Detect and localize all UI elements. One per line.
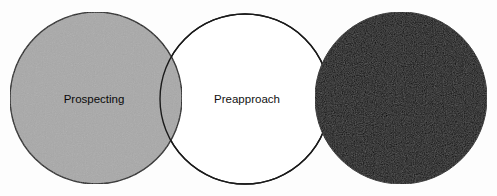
sales-process-diagram: Prospecting Preapproach — [0, 0, 497, 196]
third-stage-circle — [315, 12, 487, 184]
preapproach-label: Preapproach — [214, 93, 280, 105]
prospecting-label: Prospecting — [64, 93, 125, 105]
